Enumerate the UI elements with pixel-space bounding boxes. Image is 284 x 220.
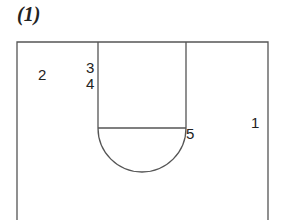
- player-position-5: 5: [186, 126, 194, 141]
- player-position-2: 2: [38, 67, 46, 82]
- court-boundary: [17, 42, 268, 220]
- player-position-3: 3: [86, 60, 94, 75]
- free-throw-arc: [98, 128, 186, 172]
- half-court-diagram: [0, 0, 284, 220]
- free-throw-lane: [98, 42, 186, 128]
- player-position-1: 1: [251, 115, 259, 130]
- player-position-4: 4: [86, 76, 94, 91]
